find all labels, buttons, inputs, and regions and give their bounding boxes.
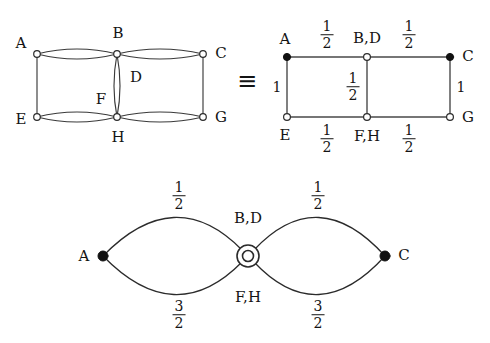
left-vertex-label-F: F	[96, 92, 106, 107]
edge-A-B-lower	[37, 54, 117, 59]
numerator: 3	[173, 299, 186, 313]
denominator: 2	[173, 317, 186, 331]
left-vertex-label-G: G	[215, 110, 227, 125]
vertex-A-filled	[283, 53, 290, 60]
edge-A-center-upper	[103, 217, 242, 256]
vertex-E	[34, 114, 41, 121]
right-edge-weight-BD-FH: 1 2	[347, 71, 360, 103]
vertex-C	[200, 51, 207, 58]
bottom-graph-vertices	[98, 245, 390, 267]
denominator: 2	[403, 141, 416, 155]
right-edge-weight-A-E: 1	[273, 80, 282, 94]
right-vertex-label-FH: F,H	[354, 129, 380, 144]
bottom-node-label-FH: F,H	[235, 290, 261, 305]
numerator: 1	[347, 71, 360, 85]
edge-E-H-lower	[37, 117, 117, 122]
right-edge-weight-A-BD: 1 2	[321, 19, 334, 51]
vertex-C-filled	[446, 53, 453, 60]
bottom-edge-weight-A-center-lower: 3 2	[173, 299, 186, 331]
right-graph-edges	[287, 57, 450, 117]
bottom-node-label-BD: B,D	[234, 211, 262, 226]
numerator: 1	[321, 123, 334, 137]
denominator: 2	[321, 141, 334, 155]
right-edge-weight-FH-G: 1 2	[403, 123, 416, 155]
edge-H-G-lower	[117, 117, 203, 122]
edge-B-C-upper	[117, 49, 203, 54]
denominator: 2	[312, 317, 325, 331]
right-vertex-label-G: G	[462, 110, 474, 125]
edge-center-C-upper	[254, 217, 385, 256]
left-vertex-label-B: B	[112, 26, 123, 41]
right-vertex-label-E: E	[280, 128, 291, 143]
numerator: 3	[312, 299, 325, 313]
edge-E-H-upper	[37, 112, 117, 117]
right-graph-vertices	[283, 53, 453, 120]
vertex-A	[34, 51, 41, 58]
edge-B-H-right	[117, 54, 120, 117]
vertex-BD-open	[364, 54, 371, 61]
edge-center-C-lower	[254, 256, 385, 295]
vertex-B	[114, 51, 121, 58]
bottom-edge-weight-A-center-upper: 1 2	[173, 180, 186, 212]
numerator: 1	[321, 19, 334, 33]
bottom-edge-weight-center-C-upper: 1 2	[312, 180, 325, 212]
edge-A-B-upper	[37, 49, 117, 54]
edge-B-C-lower	[117, 54, 203, 59]
right-vertex-label-A: A	[280, 32, 291, 47]
denominator: 2	[321, 37, 334, 51]
left-vertex-label-D: D	[130, 70, 142, 85]
denominator: 2	[312, 198, 325, 212]
vertex-A-filled	[98, 251, 108, 261]
vertex-H	[114, 114, 121, 121]
left-vertex-label-H: H	[111, 130, 124, 145]
denominator: 2	[173, 198, 186, 212]
numerator: 1	[173, 180, 186, 194]
edge-H-G-upper	[117, 112, 203, 117]
numerator: 1	[403, 19, 416, 33]
equivalence-symbol: ≡	[237, 69, 257, 93]
right-edge-weight-BD-C: 1 2	[403, 19, 416, 51]
right-vertex-label-BD: B,D	[353, 31, 381, 46]
vertex-G	[200, 114, 207, 121]
bottom-edge-weight-center-C-lower: 3 2	[312, 299, 325, 331]
vertex-G-open	[447, 114, 454, 121]
edge-A-center-lower	[103, 256, 242, 295]
vertex-merged-inner	[243, 251, 254, 262]
figure-root: A B C E H G D F ≡ A B,D C E F,H G 1 2 1 …	[0, 0, 490, 343]
left-vertex-label-C: C	[215, 46, 226, 61]
denominator: 2	[403, 37, 416, 51]
vertex-E-open	[284, 114, 291, 121]
right-edge-weight-C-G: 1	[457, 80, 466, 94]
vertex-FH-open	[364, 114, 371, 121]
left-vertex-label-E: E	[16, 112, 27, 127]
right-vertex-label-C: C	[462, 49, 473, 64]
edge-B-H-left	[114, 54, 117, 117]
left-vertex-label-A: A	[16, 36, 27, 51]
vertex-C-filled	[380, 251, 390, 261]
bottom-vertex-label-A: A	[79, 249, 90, 264]
numerator: 1	[312, 180, 325, 194]
right-edge-weight-E-FH: 1 2	[321, 123, 334, 155]
denominator: 2	[347, 89, 360, 103]
bottom-vertex-label-C: C	[398, 248, 409, 263]
left-graph-edges	[37, 49, 203, 122]
numerator: 1	[403, 123, 416, 137]
